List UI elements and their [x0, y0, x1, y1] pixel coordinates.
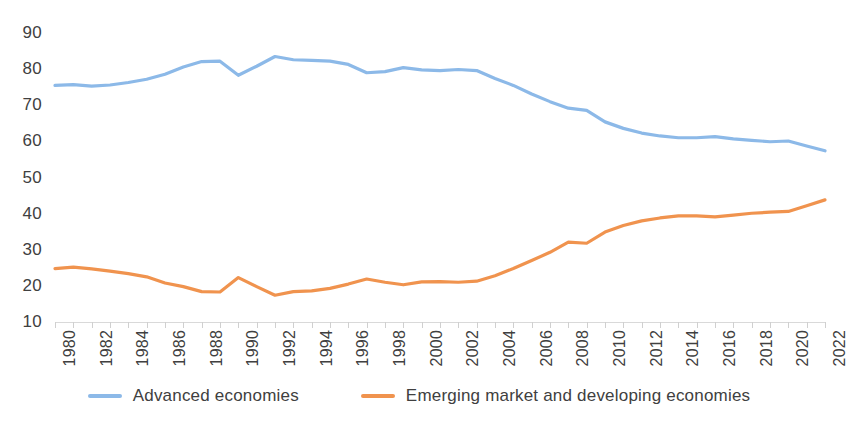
x-axis-tick — [312, 322, 313, 328]
x-axis-tick — [715, 322, 716, 328]
legend-item[interactable]: Advanced economies — [88, 386, 299, 406]
plot-area — [55, 33, 825, 322]
y-axis-tick-label: 50 — [22, 168, 42, 188]
x-axis-tick — [678, 322, 679, 328]
x-axis-tick-label: 2008 — [574, 330, 592, 366]
x-axis-tick-label: 1984 — [134, 330, 152, 366]
x-axis-tick — [92, 322, 93, 328]
x-axis-tick — [183, 322, 184, 328]
x-axis-tick — [733, 322, 734, 328]
x-axis-tick — [568, 322, 569, 328]
y-axis-tick-label: 90 — [22, 23, 42, 43]
x-axis-tick-label: 2000 — [428, 330, 446, 366]
legend-label: Advanced economies — [133, 386, 299, 406]
x-axis-tick — [477, 322, 478, 328]
chart-legend: Advanced economiesEmerging market and de… — [0, 386, 838, 406]
x-axis-tick — [367, 322, 368, 328]
x-axis-tick — [348, 322, 349, 328]
series-line — [55, 56, 825, 150]
x-axis-tick — [513, 322, 514, 328]
x-axis-tick-label: 1992 — [281, 330, 299, 366]
x-axis-tick — [587, 322, 588, 328]
x-axis-tick — [807, 322, 808, 328]
x-axis-tick — [238, 322, 239, 328]
x-axis-tick-label: 2014 — [684, 330, 702, 366]
x-axis-tick — [55, 322, 56, 328]
x-axis-tick — [660, 322, 661, 328]
x-axis-tick-label: 1988 — [208, 330, 226, 366]
x-axis-tick — [257, 322, 258, 328]
x-axis-tick — [532, 322, 533, 328]
x-axis-labels: 1980198219841986198819901992199419961998… — [55, 330, 825, 390]
x-axis-tick-label: 2002 — [464, 330, 482, 366]
x-axis-tick — [440, 322, 441, 328]
x-axis-tick-label: 2010 — [611, 330, 629, 366]
x-axis-tick — [385, 322, 386, 328]
x-axis-tick — [293, 322, 294, 328]
x-axis-tick — [697, 322, 698, 328]
y-axis-tick-label: 30 — [22, 240, 42, 260]
y-axis-tick-label: 10 — [22, 312, 42, 332]
x-axis-tick-label: 1980 — [61, 330, 79, 366]
x-axis-tick — [330, 322, 331, 328]
y-axis-tick-label: 40 — [22, 204, 42, 224]
x-axis-tick-label: 2004 — [501, 330, 519, 366]
x-axis-tick — [623, 322, 624, 328]
x-axis-tick — [642, 322, 643, 328]
x-axis-tick-label: 2018 — [758, 330, 776, 366]
legend-item[interactable]: Emerging market and developing economies — [361, 386, 750, 406]
x-axis-tick — [770, 322, 771, 328]
x-axis-tick — [550, 322, 551, 328]
y-axis-tick-label: 60 — [22, 131, 42, 151]
x-axis-tick-label: 1996 — [354, 330, 372, 366]
x-axis-tick — [147, 322, 148, 328]
x-axis-tick — [165, 322, 166, 328]
x-axis-tick — [752, 322, 753, 328]
x-axis-tick — [825, 322, 826, 328]
x-axis-tick-label: 1986 — [171, 330, 189, 366]
x-axis-tick-label: 2022 — [831, 330, 849, 366]
x-axis-tick — [422, 322, 423, 328]
legend-label: Emerging market and developing economies — [406, 386, 750, 406]
x-axis-tick-label: 1994 — [318, 330, 336, 366]
x-axis-tick-label: 2020 — [794, 330, 812, 366]
x-axis-tick — [495, 322, 496, 328]
x-axis-tick — [605, 322, 606, 328]
x-axis-tick-label: 1998 — [391, 330, 409, 366]
x-axis-ticks — [55, 322, 825, 329]
x-axis-tick — [275, 322, 276, 328]
x-axis-tick — [128, 322, 129, 328]
x-axis-tick — [458, 322, 459, 328]
series-line — [55, 200, 825, 295]
x-axis-tick — [220, 322, 221, 328]
y-axis: 908070605040302010 — [0, 0, 50, 433]
x-axis-tick-label: 2006 — [538, 330, 556, 366]
x-axis-tick-label: 1990 — [244, 330, 262, 366]
x-axis-tick — [73, 322, 74, 328]
x-axis-tick-label: 2016 — [721, 330, 739, 366]
x-axis-tick — [110, 322, 111, 328]
legend-color-swatch — [88, 394, 122, 398]
x-axis-tick — [788, 322, 789, 328]
legend-color-swatch — [361, 394, 395, 398]
y-axis-tick-label: 20 — [22, 276, 42, 296]
x-axis-tick — [403, 322, 404, 328]
x-axis-tick-label: 2012 — [648, 330, 666, 366]
y-axis-tick-label: 70 — [22, 95, 42, 115]
series-layer — [55, 33, 825, 322]
x-axis-tick — [202, 322, 203, 328]
y-axis-tick-label: 80 — [22, 59, 42, 79]
x-axis-tick-label: 1982 — [98, 330, 116, 366]
